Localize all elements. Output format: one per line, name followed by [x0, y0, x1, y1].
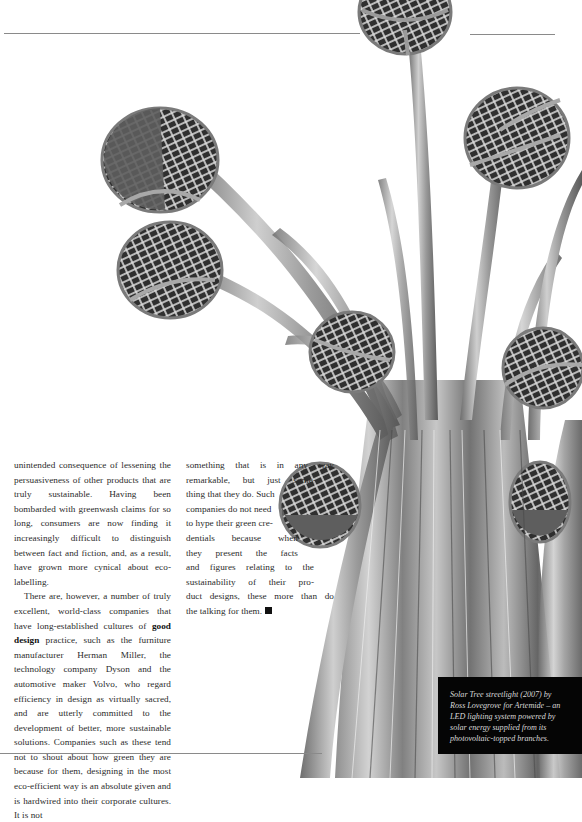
- paragraph-1: unintended consequence of lessening the …: [14, 458, 171, 589]
- caption-line: Solar Tree streetlight (2007) by: [450, 689, 574, 700]
- paragraph-2-text-start: There are, however, a number of truly ex…: [14, 591, 171, 630]
- text-line: thing that they do. Such: [186, 487, 334, 502]
- text-line: companies do not need: [186, 502, 334, 517]
- caption-line: Ross Lovegrove for Artemide – an: [450, 700, 574, 711]
- body-column-1: unintended consequence of lessening the …: [14, 458, 171, 822]
- text-line: something that is in any way: [186, 458, 334, 473]
- caption-line: LED lighting system powered by: [450, 711, 574, 722]
- caption-line: solar energy supplied from its: [450, 722, 574, 733]
- solar-disc-top: [359, 0, 451, 55]
- photo-caption: Solar Tree streetlight (2007) by Ross Lo…: [438, 677, 582, 754]
- top-rule-right: [470, 34, 555, 35]
- text-line: sustainability of their pro-: [186, 575, 314, 590]
- text-line: the talking for them.: [186, 606, 262, 616]
- body-column-2: something that is in any way remarkable,…: [186, 458, 334, 619]
- paragraph-2: There are, however, a number of truly ex…: [14, 589, 171, 822]
- text-line: to hype their green cre-: [186, 516, 334, 531]
- paragraph-2-text-end: practice, such as the furniture manufact…: [14, 635, 171, 820]
- text-line: duct designs, these more than do: [186, 589, 334, 604]
- text-line: remarkable, but just some-: [186, 473, 316, 488]
- text-line: dentials because when: [186, 531, 298, 546]
- text-line: and figures relating to the: [186, 560, 314, 575]
- text-line: they present the facts: [186, 546, 298, 561]
- caption-line: photovoltaic-topped branches.: [450, 733, 574, 744]
- end-of-article-square-icon: [265, 607, 272, 614]
- top-rule-left: [4, 33, 360, 34]
- last-line: the talking for them.: [186, 604, 334, 619]
